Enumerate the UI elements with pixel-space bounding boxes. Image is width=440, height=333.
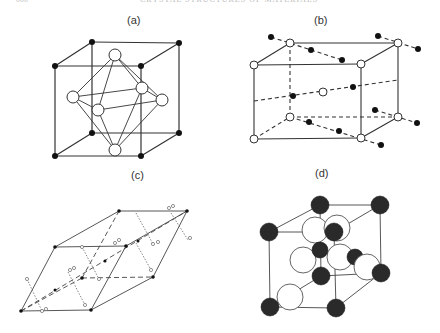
panel-d-diagram xyxy=(260,196,390,317)
panel-a-diagram xyxy=(52,39,182,159)
panel-c-diagram xyxy=(19,204,191,312)
panel-b-diagram xyxy=(250,33,421,148)
